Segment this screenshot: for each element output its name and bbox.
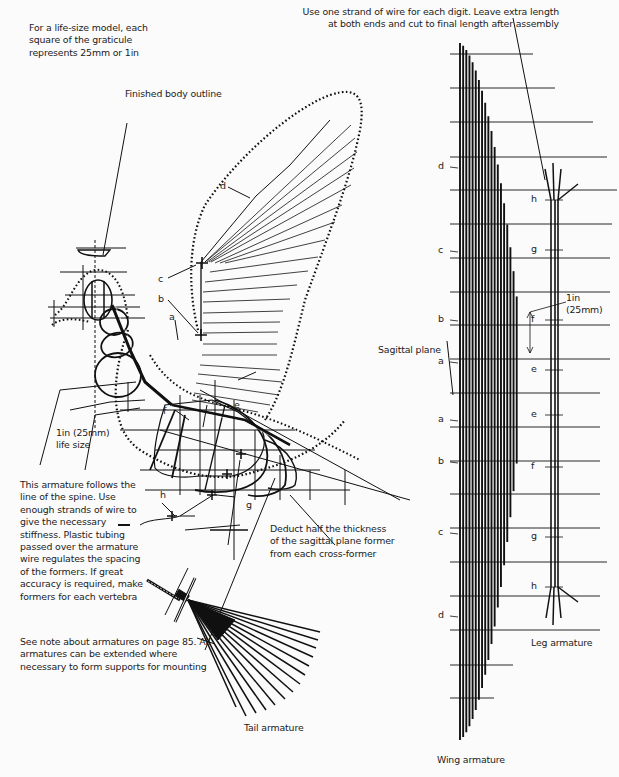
wing-armature [450,43,617,740]
wing-leading-edge [201,120,330,262]
body-label-h: h [160,490,166,500]
leg-armature [527,163,578,625]
wing-armature-label: d [438,610,444,620]
sagittal-plane-label: Sagittal plane [378,344,441,356]
wing-feathers [192,125,357,412]
body-formers [120,380,410,650]
wing-armature-label: c [438,527,443,537]
leg-armature-label: h [531,194,537,204]
leg-armature-label: h [531,581,537,591]
graticule-note: For a life-size model, each square of th… [29,22,148,59]
body-label-b: b [158,294,164,304]
body-outline [116,330,345,477]
leg-armature-label: f [531,314,534,324]
wing-outline [191,92,361,420]
spine-note: This armature follows the line of the sp… [20,479,143,603]
leg-scale-note: 1in (25mm) [566,292,603,317]
wing-armature-label: a [438,414,444,424]
body-label-f: f [163,406,166,416]
armature-note: See note about armatures on page 85. All… [20,636,210,673]
wing-armature-label: b [438,314,444,324]
leg-armature-label: e [531,409,537,419]
leg-armature-label: g [531,244,537,254]
wing-armature-label: c [438,245,443,255]
body-label-a: a [169,312,175,322]
body-label-c: c [158,274,163,284]
body-outline-note: Finished body outline [125,88,222,100]
wing-armature-caption: Wing armature [437,754,505,766]
wire-strand-note: Use one strand of wire for each digit. L… [269,6,559,31]
wing-armature-label: d [438,161,444,171]
tail-armature-caption: Tail armature [244,722,304,734]
body-label-g: g [246,500,252,510]
leg-armature-label: g [531,531,537,541]
wing-armature-label: a [438,356,444,366]
sagittal-deduct-note: Deduct half the thickness of the sagitta… [270,523,395,560]
body-label-e: e [234,400,240,410]
wing-armature-label: b [438,456,444,466]
leg-armature-caption: Leg armature [531,637,592,649]
leg-armature-label: e [531,364,537,374]
leg-armature-label: f [531,461,534,471]
scale-note: 1in (25mm) life size [56,427,110,452]
armature-diagram: For a life-size model, each square of th… [0,0,619,777]
body-label-d: d [220,181,226,191]
